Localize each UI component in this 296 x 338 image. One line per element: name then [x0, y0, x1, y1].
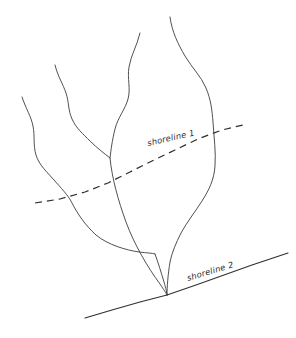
figure-root: shoreline 1 shoreline 2	[0, 0, 296, 338]
shoreline-stream-diagram: shoreline 1 shoreline 2	[0, 0, 296, 338]
